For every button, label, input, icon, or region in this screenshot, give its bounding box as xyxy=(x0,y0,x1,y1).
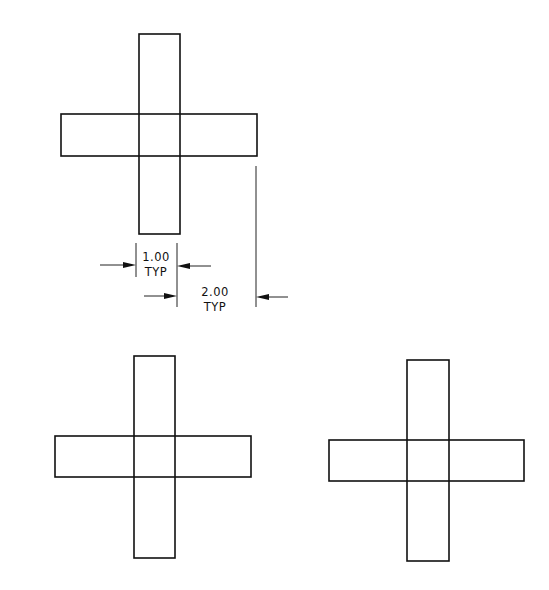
arrowhead-left-pointing-icon xyxy=(256,294,269,300)
cross-bottom-right-vertical-bar xyxy=(407,360,449,561)
dimension-arm: 2.00 TYP xyxy=(144,166,288,314)
cross-bottom-left-horizontal-bar xyxy=(55,436,251,477)
drawing-canvas: 1.00 TYP 2.00 TYP xyxy=(0,0,549,590)
dimension-width: 1.00 TYP xyxy=(100,243,211,307)
cross-top xyxy=(61,34,257,234)
dimension-value-2: 2.00 xyxy=(201,285,229,299)
arrowhead-left-pointing-icon xyxy=(177,263,190,269)
cross-top-horizontal-bar xyxy=(61,114,257,156)
arrowhead-right-pointing-icon xyxy=(123,262,136,268)
dimension-value-1: 1.00 xyxy=(142,250,170,264)
dimension-qualifier-1: TYP xyxy=(144,265,167,279)
cross-top-vertical-bar xyxy=(139,34,180,234)
dimension-qualifier-2: TYP xyxy=(203,300,226,314)
arrowhead-right-pointing-icon xyxy=(164,293,177,299)
cross-bottom-right xyxy=(329,360,524,561)
cross-bottom-left xyxy=(55,356,251,558)
cross-bottom-left-vertical-bar xyxy=(134,356,175,558)
cross-bottom-right-horizontal-bar xyxy=(329,440,524,481)
